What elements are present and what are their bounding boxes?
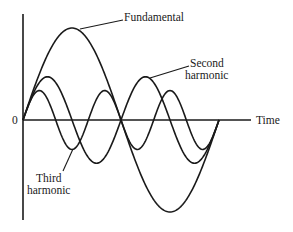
second-harmonic-leader-line [150, 66, 189, 78]
third-harmonic-label-line1: Third [36, 172, 62, 184]
fundamental-label: Fundamental [124, 11, 184, 23]
harmonics-diagram: 0 Time Fundamental Second harmonic Third… [0, 0, 293, 232]
third-harmonic-leader-line [63, 149, 73, 171]
time-axis-label: Time [256, 114, 280, 126]
diagram-canvas: 0 Time Fundamental Second harmonic Third… [0, 0, 293, 232]
third-harmonic-label-line2: harmonic [27, 184, 70, 196]
fundamental-leader-line [80, 20, 123, 29]
origin-label: 0 [12, 114, 18, 126]
second-harmonic-label-line2: harmonic [185, 69, 228, 81]
second-harmonic-label-line1: Second [190, 57, 224, 69]
